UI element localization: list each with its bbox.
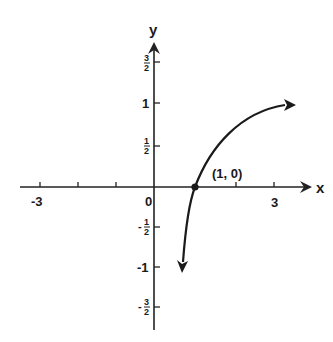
- svg-text:1: 1: [144, 217, 149, 227]
- y-axis-label: y: [149, 21, 158, 38]
- x-tick-label: 3: [271, 195, 278, 210]
- svg-text:1: 1: [144, 136, 149, 146]
- x-axis: [20, 181, 312, 193]
- graph: x y -3 0 3 3 2 1 1 2 - 1 2 -1 - 3 2 (1, …: [0, 0, 333, 342]
- point-label: (1, 0): [212, 166, 242, 181]
- svg-text:2: 2: [144, 63, 149, 73]
- y-axis: [148, 42, 160, 330]
- y-tick-label: 1: [142, 96, 149, 111]
- svg-text:2: 2: [144, 146, 149, 156]
- point-marker: [191, 183, 198, 190]
- svg-text:-: -: [138, 300, 142, 312]
- y-tick-label-neg-3-2: - 3 2: [138, 297, 150, 317]
- y-tick-label: -1: [137, 260, 149, 275]
- x-tick-label: 0: [145, 194, 152, 209]
- x-tick-label: -3: [31, 194, 43, 209]
- svg-text:2: 2: [144, 307, 149, 317]
- svg-text:-: -: [138, 220, 142, 232]
- x-axis-label: x: [316, 179, 325, 196]
- curve-end-arrow-icon: [284, 99, 296, 111]
- svg-text:3: 3: [144, 297, 149, 307]
- y-tick-label-1-2: 1 2: [144, 136, 150, 156]
- svg-text:2: 2: [144, 227, 149, 237]
- y-tick-label-neg-1-2: - 1 2: [138, 217, 150, 237]
- y-tick-label-3-2: 3 2: [144, 53, 150, 73]
- svg-text:3: 3: [144, 53, 149, 63]
